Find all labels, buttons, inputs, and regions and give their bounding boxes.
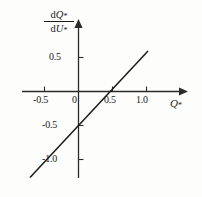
y-axis-label: dQ* dU* xyxy=(40,9,78,34)
x-tick-label-0.5: 0.5 xyxy=(104,94,116,105)
y-tick-label--1.0: -1.0 xyxy=(42,153,57,164)
x-axis-label-var: Q xyxy=(170,97,178,109)
numerator-subscript: * xyxy=(63,12,67,21)
chart-figure: dQ* dU* dQ*/dU* vs Q*Q* -0.5 0 0.5 1.0 0… xyxy=(0,0,202,197)
x-tick-label-1.0: 1.0 xyxy=(136,94,148,105)
y-tick-label--0.5: -0.5 xyxy=(42,119,57,130)
x-axis-label-subscript: * xyxy=(178,101,182,110)
y-tick-label-0.5: 0.5 xyxy=(49,51,61,62)
x-axis-arrowhead xyxy=(179,87,188,95)
denominator-subscript: * xyxy=(63,26,67,35)
x-tick-label--0.5: -0.5 xyxy=(33,94,48,105)
x-axis-label: dQ*/dU* vs Q*Q* xyxy=(170,97,182,109)
y-axis-label-numerator: dQ* xyxy=(40,9,78,21)
x-tick-label-0: 0 xyxy=(72,94,77,105)
y-axis-label-denominator: dU* xyxy=(40,23,78,35)
